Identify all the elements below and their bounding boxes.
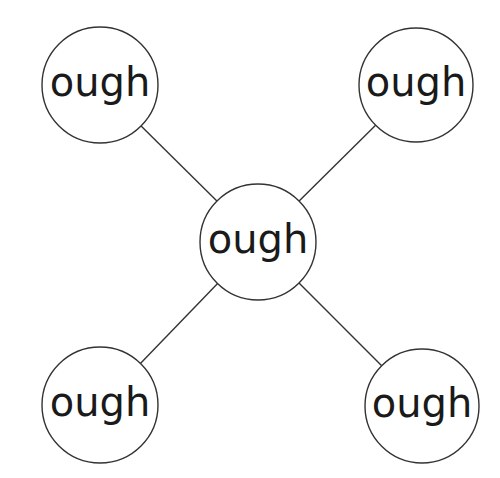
node-top-left: ough: [42, 27, 158, 143]
node-label: ough: [50, 59, 151, 105]
node-bottom-left: ough: [42, 347, 158, 463]
node-bottom-right: ough: [365, 349, 479, 463]
spider-diagram: oughoughoughoughough: [0, 0, 500, 478]
connector-bottom-right: [299, 283, 382, 366]
node-top-right: ough: [359, 28, 473, 142]
node-label: ough: [208, 216, 309, 262]
connector-top-left: [141, 126, 217, 201]
connector-bottom-left: [140, 284, 217, 364]
node-label: ough: [366, 59, 467, 105]
node-label: ough: [50, 379, 151, 425]
connector-top-right: [299, 125, 376, 201]
node-center: ough: [200, 184, 316, 300]
nodes: oughoughoughoughough: [42, 27, 479, 463]
node-label: ough: [372, 380, 473, 426]
